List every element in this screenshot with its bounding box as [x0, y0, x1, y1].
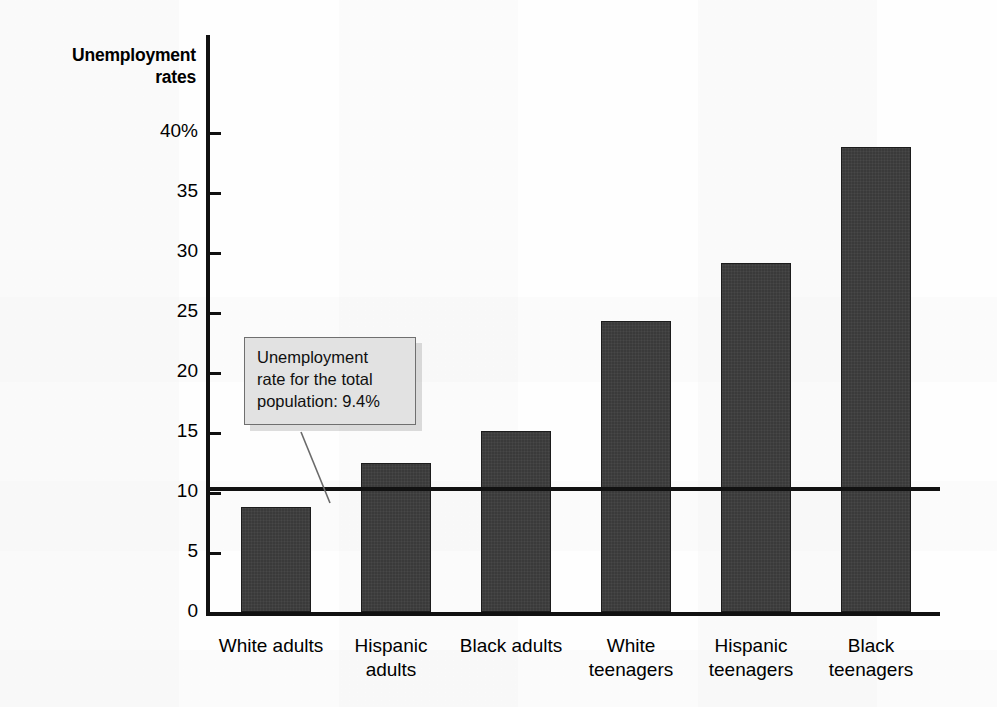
annotation-line-2: rate for the total	[257, 369, 405, 391]
y-tick-label-20: 20	[138, 360, 198, 382]
plot-area: 40% 35 30 25 20 15 10 5 0	[206, 35, 940, 616]
y-axis-line	[206, 35, 210, 616]
bar-black-adults	[481, 431, 551, 612]
y-tick-label-5: 5	[138, 540, 198, 562]
y-tick-15: 15	[210, 432, 221, 435]
y-axis-title: Unemployment rates	[36, 44, 196, 89]
y-tick-label-25: 25	[138, 300, 198, 322]
bar-white-adults	[241, 507, 311, 612]
x-axis-line	[206, 612, 940, 616]
y-tick-5: 5	[210, 552, 221, 555]
bar-black-teenagers	[841, 147, 911, 612]
annotation-line-1: Unemployment	[257, 347, 405, 369]
y-tick-10: 10	[210, 492, 221, 495]
y-tick-label-35: 35	[138, 180, 198, 202]
y-tick-40: 40%	[210, 132, 221, 135]
y-tick-30: 30	[210, 252, 221, 255]
y-tick-label-30: 30	[138, 240, 198, 262]
bar-hispanic-teenagers	[721, 263, 791, 612]
chart-figure: Unemployment rates 40% 35 30 25 20 15 10…	[0, 0, 997, 707]
y-tick-25: 25	[210, 312, 221, 315]
total-population-reference-line	[206, 487, 940, 491]
y-tick-label-0: 0	[138, 600, 198, 622]
annotation-line-3: population: 9.4%	[257, 391, 405, 413]
x-category-label-black-teenagers: Black teenagers	[796, 634, 946, 682]
bar-white-teenagers	[601, 321, 671, 612]
y-tick-label-10: 10	[138, 480, 198, 502]
y-tick-0: 0	[210, 612, 214, 615]
y-tick-20: 20	[210, 372, 221, 375]
y-tick-35: 35	[210, 192, 221, 195]
annotation-callout: Unemployment rate for the total populati…	[244, 337, 416, 425]
y-tick-label-15: 15	[138, 420, 198, 442]
y-tick-label-40: 40%	[138, 120, 198, 142]
